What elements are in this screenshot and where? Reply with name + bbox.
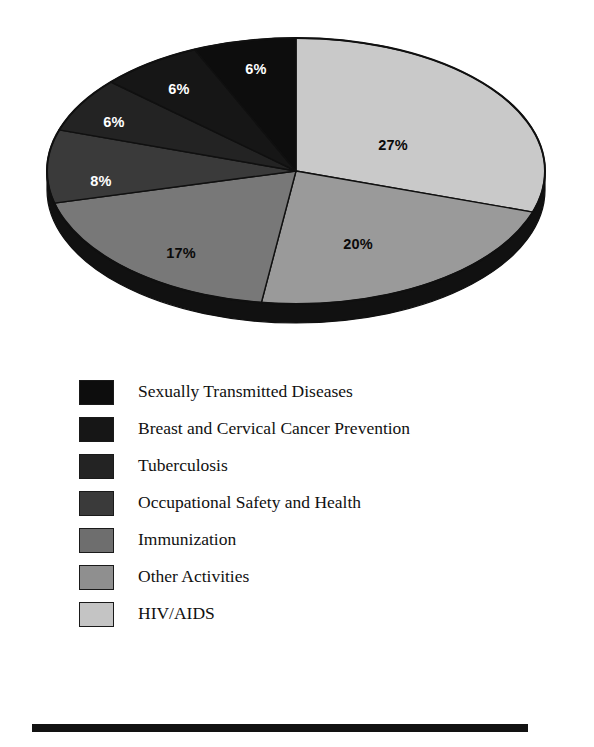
legend-item-label: Other Activities [138,568,249,586]
legend-item: Breast and Cervical Cancer Prevention [79,416,549,442]
legend-item-label: Immunization [138,531,236,549]
legend-item: Other Activities [79,564,549,590]
legend-swatch [79,528,114,553]
legend-swatch [79,602,114,627]
legend-item-label: HIV/AIDS [138,605,215,623]
legend-item-label: Occupational Safety and Health [138,494,361,512]
legend-swatch [79,380,114,405]
legend-swatch [79,565,114,590]
pie-chart-figure: 27%20%17%8%6%6%6% [0,0,594,340]
pie-chart-svg [0,0,594,340]
legend-item: Occupational Safety and Health [79,490,549,516]
legend-swatch [79,491,114,516]
bottom-rule-divider [32,724,528,732]
legend-item: Tuberculosis [79,453,549,479]
legend-item: Sexually Transmitted Diseases [79,379,549,405]
legend-item-label: Sexually Transmitted Diseases [138,383,353,401]
legend-item-label: Breast and Cervical Cancer Prevention [138,420,410,438]
legend-item: HIV/AIDS [79,601,549,627]
legend-swatch [79,454,114,479]
legend-item: Immunization [79,527,549,553]
legend-swatch [79,417,114,442]
chart-legend: Sexually Transmitted DiseasesBreast and … [79,379,549,638]
legend-item-label: Tuberculosis [138,457,228,475]
